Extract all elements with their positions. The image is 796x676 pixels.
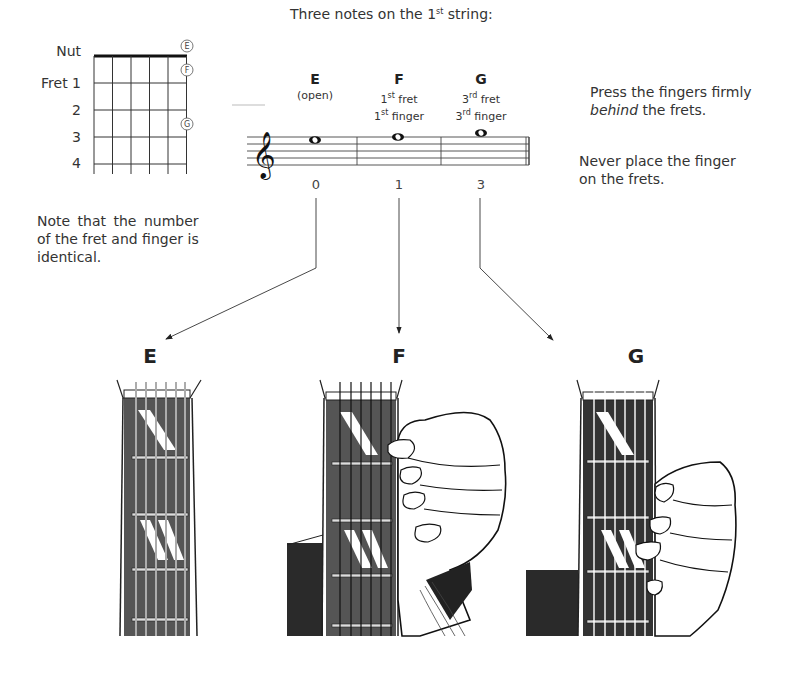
tab-number-e: 0 xyxy=(301,177,331,192)
note-f-position: 1st fret 1st finger xyxy=(354,89,444,123)
never-place-text: Never place the finger on the frets. xyxy=(579,152,736,188)
illustration-label-g: G xyxy=(616,344,656,368)
note-name-f: F xyxy=(354,71,444,87)
note-g-fret: 3rd fret xyxy=(436,89,526,106)
whole-notes xyxy=(309,129,487,144)
never-place-line1: Never place the finger xyxy=(579,152,736,170)
connector-arrows xyxy=(166,198,553,340)
note-e-position: (open) xyxy=(270,89,360,102)
press-firmly-line1: Press the fingers firmly xyxy=(590,83,752,101)
note-g-finger: 3rd finger xyxy=(436,106,526,123)
press-firmly-line2: behind the frets. xyxy=(590,101,752,119)
note-name-g: G xyxy=(436,71,526,87)
identical-line2: of the fret and finger is xyxy=(37,230,199,248)
note-f-fret: 1st fret xyxy=(354,89,444,106)
guitar-neck-f-illustration xyxy=(287,380,506,636)
svg-text:F: F xyxy=(185,66,190,75)
illustration-label-f: F xyxy=(379,344,419,368)
fret-diagram xyxy=(94,56,187,174)
svg-text:E: E xyxy=(184,42,189,51)
note-name-e: E xyxy=(270,71,360,87)
press-firmly-text: Press the fingers firmly behind the fret… xyxy=(590,83,752,119)
staff-title-suffix: string: xyxy=(443,6,492,22)
tab-number-g: 3 xyxy=(466,177,496,192)
music-staff xyxy=(247,137,529,165)
identical-line3: identical. xyxy=(37,248,199,266)
treble-clef-icon: 𝄞 xyxy=(252,131,276,180)
never-place-line2: on the frets. xyxy=(579,170,736,188)
svg-text:G: G xyxy=(184,120,190,129)
staff-title-prefix: Three notes on the 1 xyxy=(290,6,436,22)
identical-line1: Note that the number xyxy=(37,212,199,230)
staff-title: Three notes on the 1st string: xyxy=(290,6,493,22)
identical-note-text: Note that the number of the fret and fin… xyxy=(37,212,199,266)
illustration-label-e: E xyxy=(130,344,170,368)
note-f-finger: 1st finger xyxy=(354,106,444,123)
guitar-neck-g-illustration xyxy=(526,380,736,636)
note-g-position: 3rd fret 3rd finger xyxy=(436,89,526,123)
tab-number-f: 1 xyxy=(384,177,414,192)
guitar-neck-e-illustration xyxy=(117,380,201,636)
